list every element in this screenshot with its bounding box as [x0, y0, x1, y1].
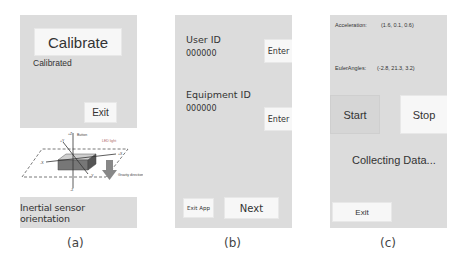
acceleration-label: Acceleration: [335, 22, 367, 28]
exit-button[interactable]: Exit [84, 102, 117, 123]
stop-button[interactable]: Stop [400, 95, 447, 134]
svg-text:Button: Button [77, 133, 87, 137]
equipment-id-value[interactable]: 000000 [186, 104, 217, 113]
user-id-value[interactable]: 000000 [186, 49, 217, 58]
exit-app-button[interactable]: Exit App [183, 198, 214, 218]
stop-label: Stop [413, 109, 436, 121]
euler-angles-label: EulerAngles: [335, 65, 366, 71]
exit-label-c: Exit [355, 208, 368, 217]
orientation-caption-box: Inertial sensor orientation [20, 197, 137, 228]
svg-text:+Z: +Z [68, 132, 73, 136]
svg-text:+X: +X [118, 152, 123, 156]
svg-text:LED light: LED light [102, 139, 116, 143]
svg-text:+Y: +Y [60, 139, 65, 143]
acceleration-value: (1.6, 0.1, 0.6) [381, 22, 414, 28]
svg-text:-X: -X [40, 161, 44, 165]
exit-button-label: Exit [92, 107, 109, 118]
equipment-id-enter-button[interactable]: Enter [264, 107, 292, 131]
figure-label-b: (b) [224, 236, 241, 250]
next-button[interactable]: Next [224, 197, 279, 219]
data-collection-screen: Acceleration: (1.6, 0.1, 0.6) EulerAngle… [330, 15, 447, 228]
sensor-orientation-diagram: Button LED light Gravity direction +Z -Z… [18, 130, 143, 192]
svg-text:Gravity direction: Gravity direction [118, 173, 143, 177]
user-id-label: User ID [186, 34, 221, 45]
orientation-caption: Inertial sensor orientation [20, 202, 137, 224]
collecting-status: Collecting Data... [352, 154, 436, 166]
user-id-enter-button[interactable]: Enter [264, 39, 292, 63]
id-entry-screen: User ID 000000 Enter Equipment ID 000000… [175, 15, 292, 228]
user-id-enter-label: Enter [268, 47, 289, 56]
figure-label-a: (a) [67, 236, 84, 250]
calibration-screen: Calibrate Calibrated Exit [20, 15, 137, 128]
equipment-id-enter-label: Enter [268, 115, 289, 124]
euler-angles-value: (-2.8, 21.3, 3.2) [377, 65, 415, 71]
start-button[interactable]: Start [330, 95, 380, 134]
start-label: Start [343, 109, 366, 121]
calibrate-button-label: Calibrate [48, 34, 108, 51]
calibrate-button[interactable]: Calibrate [34, 28, 122, 56]
sensor-diagram-icon: Button LED light Gravity direction +Z -Z… [18, 130, 143, 192]
exit-app-label: Exit App [187, 205, 210, 211]
calibration-status: Calibrated [33, 58, 72, 68]
equipment-id-label: Equipment ID [186, 89, 251, 100]
svg-text:-Y: -Y [90, 174, 94, 178]
svg-text:-Z: -Z [70, 188, 74, 192]
next-label: Next [240, 203, 263, 214]
exit-button-c[interactable]: Exit [332, 202, 392, 222]
figure-label-c: (c) [380, 236, 396, 250]
